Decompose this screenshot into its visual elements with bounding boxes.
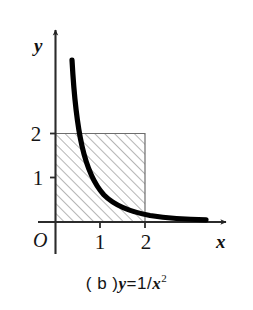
y-axis-label: y xyxy=(32,35,43,56)
x-tick-label-1: 1 xyxy=(95,230,106,254)
caption-base-variable: x xyxy=(152,274,161,293)
y-tick-label-2: 2 xyxy=(31,122,42,146)
y-tick-label-1: 1 xyxy=(33,166,44,190)
figure-caption: ( b )y=1/x2 xyxy=(0,272,253,294)
origin-label: O xyxy=(33,229,47,251)
caption-function-variable: y xyxy=(119,274,127,293)
figure-container: y x O 2 1 1 2 ( b )y=1/x2 xyxy=(0,0,253,310)
plot-canvas: y x O 2 1 1 2 xyxy=(0,0,253,310)
caption-prefix: ( b ) xyxy=(86,274,119,293)
x-axis-label: x xyxy=(215,231,226,252)
caption-exponent: 2 xyxy=(161,272,167,284)
x-tick-label-2: 2 xyxy=(141,230,152,254)
caption-equals-one-over: =1/ xyxy=(127,274,153,293)
